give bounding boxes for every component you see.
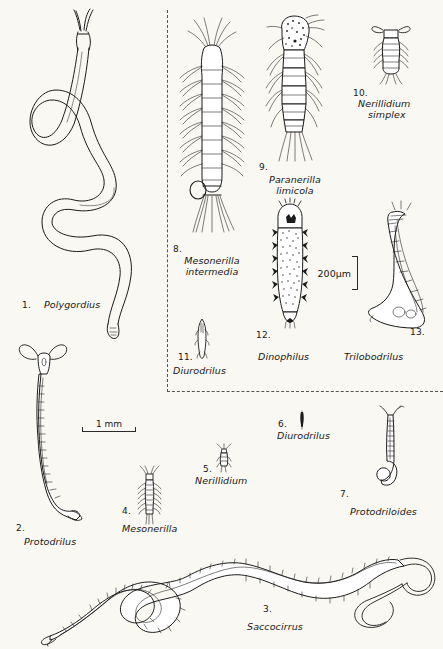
- figure-10-genus-text: Nerillidium: [358, 98, 410, 109]
- figure-3-number: 3.: [263, 604, 272, 614]
- figure-12-genus: Dinophilus: [258, 352, 309, 363]
- scale-bar-1mm-label: 1 mm: [96, 419, 122, 429]
- figure-11-number: 11.: [178, 352, 193, 362]
- scale-bar-200um: 200µm: [300, 256, 358, 290]
- figure-diurodrilus-inset-drawing: [192, 318, 212, 360]
- figure-9-number: 9.: [259, 162, 268, 172]
- figure-protodrilus-drawing: [14, 340, 94, 530]
- figure-2-number: 2.: [16, 523, 25, 533]
- figure-1-genus: Polygordius: [44, 300, 100, 311]
- figure-13-number: 13.: [410, 327, 425, 337]
- figure-3-genus: Saccocirrus: [247, 622, 303, 633]
- figure-9-genus-text: Paranerilla: [269, 174, 321, 185]
- figure-trilobodrilus-drawing: [365, 200, 437, 340]
- figure-10-genus: Nerillidium simplex: [358, 99, 428, 120]
- scale-bar-1mm-line: [82, 431, 136, 432]
- figure-paranerilla-limicola-drawing: [262, 14, 326, 162]
- figure-6-genus: Diurodrilus: [277, 431, 330, 442]
- figure-mesonerilla-drawing: [136, 466, 162, 524]
- figure-mesonerilla-intermedia-drawing: [174, 14, 250, 234]
- figure-13-genus: Trilobodrilus: [344, 352, 403, 363]
- figure-12-number: 12.: [256, 330, 271, 340]
- figure-1-number: 1.: [22, 300, 31, 310]
- figure-8-epithet-text: intermedia: [186, 266, 239, 277]
- figure-2-genus: Protodrilus: [24, 537, 76, 548]
- figure-8-genus: Mesonerilla intermedia: [181, 256, 243, 277]
- illustration-plate: 1. Polygordius: [0, 0, 443, 649]
- figure-saccocirrus-drawing: [40, 556, 440, 646]
- figure-7-genus: Protodriloides: [350, 507, 417, 518]
- figure-4-genus: Mesonerilla: [122, 524, 177, 535]
- figure-11-genus: Diurodrilus: [173, 366, 226, 377]
- figure-9-epithet-text: limicola: [276, 185, 313, 196]
- figure-9-genus: Paranerilla limicola: [265, 175, 325, 196]
- figure-4-number: 4.: [122, 506, 131, 516]
- figure-8-genus-text: Mesonerilla: [184, 255, 239, 266]
- scale-bar-200um-line: [357, 256, 358, 290]
- scale-bar-1mm: 1 mm: [82, 414, 136, 432]
- figure-protodriloides-drawing: [374, 405, 408, 497]
- figure-10-epithet-text: simplex: [368, 110, 406, 121]
- figure-5-genus: Nerillidium: [195, 476, 247, 487]
- scale-bar-200um-label: 200µm: [318, 268, 351, 279]
- figure-10-number: 10.: [353, 88, 368, 98]
- figure-polygordius-drawing: [18, 8, 158, 328]
- figure-8-number: 8.: [173, 244, 182, 254]
- figure-7-number: 7.: [340, 489, 349, 499]
- figure-diurodrilus-drawing: [297, 411, 307, 429]
- figure-nerillidium-drawing: [216, 444, 232, 472]
- figure-6-number: 6.: [278, 419, 287, 429]
- figure-nerillidium-simplex-drawing: [369, 22, 413, 84]
- figure-5-number: 5.: [203, 464, 212, 474]
